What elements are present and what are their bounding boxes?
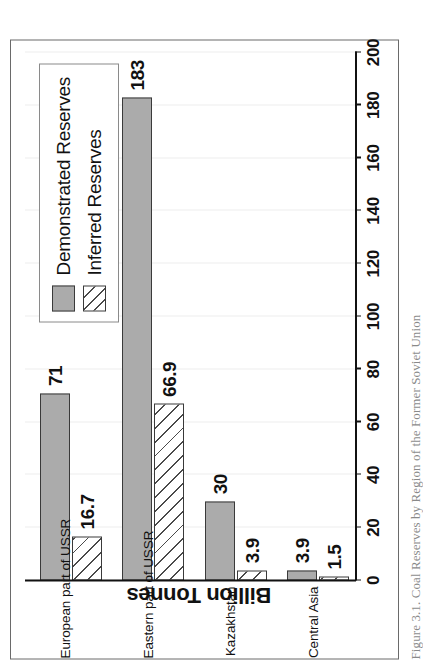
legend-item-demonstrated-reserves: Demonstrated Reserves <box>52 76 75 311</box>
axis-tick <box>355 209 361 210</box>
legend-swatch-inferred-reserves <box>83 285 106 311</box>
bar-value-label: 66.9 <box>159 361 181 396</box>
bar-value-label: 30 <box>210 474 232 494</box>
axis-tick <box>355 51 361 52</box>
legend-label-inferred-reserves: Inferred Reserves <box>84 129 106 275</box>
axis-tick-label: 40 <box>364 444 384 504</box>
axis-tick-label: 160 <box>364 128 384 188</box>
axis-tick-label: 120 <box>364 233 384 293</box>
axis-tick <box>355 367 361 368</box>
axis-tick <box>355 103 361 104</box>
axis-tick <box>355 420 361 421</box>
axis-tick-label: 60 <box>364 392 384 452</box>
rotated-page-wrapper: 7116.718366.9303.93.91.5 020406080100120… <box>0 0 436 671</box>
chart-plot-frame: 7116.718366.9303.93.91.5 020406080100120… <box>10 39 399 659</box>
bar-value-label: 3.9 <box>242 538 264 563</box>
axis-tick <box>355 156 361 157</box>
bar-demonstrated-1 <box>122 97 152 580</box>
category-label-0: European part of USSR <box>58 586 73 658</box>
axis-tick-label: 80 <box>364 339 384 399</box>
bar-inferred-2 <box>237 570 267 580</box>
bar-value-label: 3.9 <box>292 538 314 563</box>
bar-demonstrated-2 <box>205 501 235 580</box>
figure-page: 7116.718366.9303.93.91.5 020406080100120… <box>0 0 436 671</box>
chart-legend: Demonstrated Reserves Inferred Reserves <box>39 63 119 322</box>
axis-tick-label: 180 <box>364 75 384 135</box>
value-axis-title: Billion Tonnes <box>79 581 319 607</box>
axis-tick <box>355 315 361 316</box>
axis-tick <box>355 526 361 527</box>
axis-tick-label: 200 <box>364 22 384 82</box>
bar-demonstrated-3 <box>287 570 317 580</box>
axis-tick <box>355 579 361 580</box>
bar-value-label: 183 <box>127 60 149 90</box>
legend-item-inferred-reserves: Inferred Reserves <box>83 76 106 311</box>
bar-value-label: 71 <box>45 365 67 385</box>
legend-label-demonstrated-reserves: Demonstrated Reserves <box>53 76 75 275</box>
bar-value-label: 16.7 <box>77 494 99 529</box>
axis-tick <box>355 262 361 263</box>
axis-tick-label: 140 <box>364 180 384 240</box>
bar-inferred-0 <box>72 536 102 580</box>
figure-caption: Figure 3.1. Coal Reserves by Region of t… <box>408 39 424 659</box>
legend-swatch-demonstrated-reserves <box>52 285 75 311</box>
axis-tick-label: 20 <box>364 497 384 557</box>
bar-inferred-1 <box>154 403 184 580</box>
axis-tick <box>355 473 361 474</box>
axis-tick-label: 100 <box>364 286 384 346</box>
bar-value-label: 1.5 <box>324 544 346 569</box>
axis-tick-label: 0 <box>364 550 384 610</box>
